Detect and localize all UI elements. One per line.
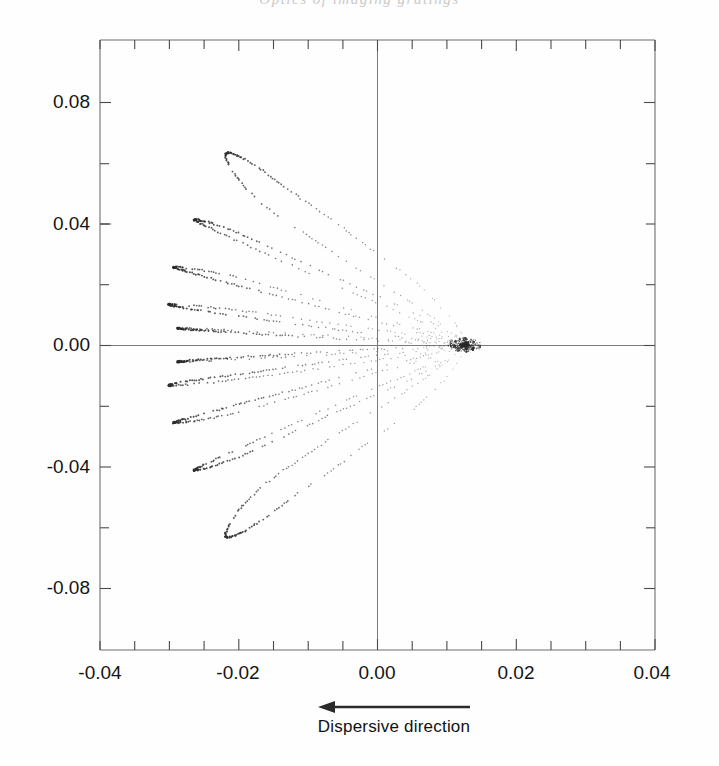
ray-fan-trace [193,346,469,472]
x-tick-label: 0.02 [498,662,535,684]
data-series-layer [167,151,481,539]
ray-fan-trace [224,151,467,346]
y-tick-label: 0.00 [8,334,90,356]
ray-fan-trace [176,344,465,364]
ray-fan-trace [167,303,463,345]
x-axis-caption: Dispersive direction [318,717,470,737]
x-tick-label: -0.04 [78,662,121,684]
x-tick-label: 0.00 [359,662,396,684]
y-tick-label: 0.08 [8,91,90,113]
ray-fan-trace [172,345,469,425]
figure-page: Optics of imaging gratings [0,0,719,766]
x-tick-label: 0.04 [634,662,671,684]
y-tick-label: 0.04 [8,213,90,235]
spot-diagram-plot [0,0,719,766]
ray-fan-trace [193,218,463,344]
ray-fan-trace [176,327,463,346]
ray-fan-trace [172,265,466,344]
y-tick-label: -0.04 [8,456,90,478]
zero-axis-lines [100,40,655,650]
x-tick-label: -0.02 [216,662,259,684]
y-tick-label: -0.08 [8,577,90,599]
focal-point-cluster [447,337,481,353]
ray-fan-trace [224,345,467,539]
left-arrow-icon [318,701,470,713]
ray-fan-trace [167,344,467,387]
